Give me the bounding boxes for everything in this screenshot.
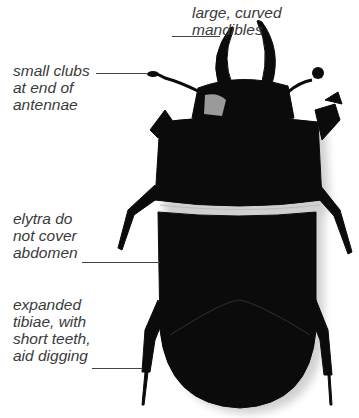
label-tibiae: expanded tibiae, with short teeth, aid d… [13,296,91,364]
leader-line-elytra [82,262,160,263]
leader-line-tibiae [92,368,142,369]
label-elytra: elytra do not cover abdomen [13,210,78,261]
leader-line-antennae [96,73,148,74]
label-antennae: small clubs at end of antennae [13,62,90,113]
leader-line-mandibles [172,36,220,37]
label-mandibles: large, curved mandibles [192,4,282,38]
beetle-anatomy-figure: large, curved mandibles small clubs at e… [0,0,359,418]
